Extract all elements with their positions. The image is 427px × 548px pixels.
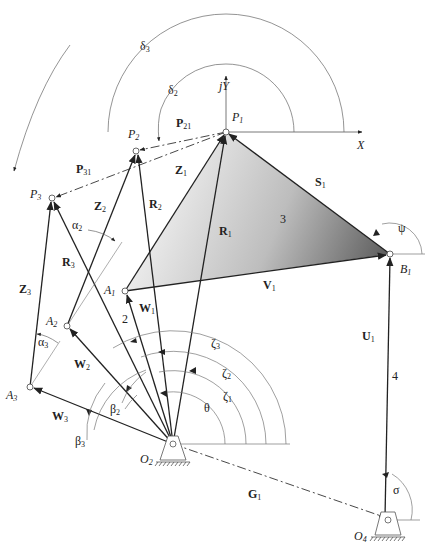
beta2-label: β2 (110, 403, 120, 417)
psi-label: ψ (398, 222, 406, 234)
vector-P31-label: P31 (76, 163, 91, 177)
point-A1-label: A1 (104, 284, 115, 298)
point-P1-label: P1 (232, 111, 243, 125)
delta3-label: δ3 (140, 40, 150, 54)
point-P3-label: P3 (30, 188, 41, 202)
point-A2-label: A2 (46, 315, 57, 329)
vector-G1-label: G1 (248, 488, 261, 502)
linkage-diagram (0, 0, 427, 548)
delta3-arc-tail (8, 60, 34, 170)
beta3-arc (87, 383, 105, 440)
vector-W3-label: W3 (52, 410, 68, 424)
point-A3-label: A3 (6, 389, 17, 403)
link-3-label: 3 (280, 213, 286, 225)
beta2-arc (122, 372, 146, 403)
Z2-vector (67, 155, 135, 326)
point-P2-label: P2 (128, 128, 139, 142)
vector-Z3-label: Z3 (19, 283, 31, 297)
ground-pivot-o2 (155, 436, 190, 466)
vector-W2-label: W2 (74, 358, 90, 372)
delta2-arc-tail (158, 109, 161, 141)
vector-S1-label: S1 (315, 176, 326, 190)
delta3-arc-left (108, 92, 113, 132)
alpha3-label: α3 (38, 336, 48, 350)
theta-label: θ (204, 402, 210, 414)
vector-R1-label: R1 (219, 225, 232, 239)
vector-U1-label: U1 (362, 330, 375, 344)
vector-R3-label: R3 (62, 256, 75, 270)
vector-Z1-label: Z1 (175, 164, 187, 178)
o2-angle-arcs (94, 331, 290, 444)
link-2-label: 2 (122, 313, 128, 325)
zeta1-label: ζ1 (223, 390, 232, 404)
point-O4-label: O4 (354, 530, 367, 544)
delta3-arc-left-portion (14, 45, 70, 171)
P21-vector (140, 132, 226, 150)
delta2-arc-left-portion (147, 76, 162, 140)
vector-P21-label: P21 (176, 117, 191, 131)
zeta3-label: ζ3 (211, 337, 220, 351)
G1-vector (173, 444, 384, 517)
delta3-outer (14, 58, 54, 170)
delta2-label: δ2 (168, 84, 178, 98)
zeta2-label: ζ2 (222, 367, 231, 381)
alpha2-label: α2 (72, 219, 82, 233)
vector-V1-label: V1 (263, 279, 276, 293)
x-axis-label: X (357, 139, 364, 151)
sigma-label: σ (393, 484, 399, 496)
vector-Z2-label: Z2 (94, 200, 106, 214)
W1-vector (127, 295, 173, 444)
point-O2-label: O2 (140, 453, 153, 467)
link-4-label: 4 (392, 370, 398, 382)
ground-pivot-o4 (370, 512, 405, 541)
vector-R2-label: R2 (149, 198, 162, 212)
point-B1-label: B1 (400, 263, 411, 277)
y-axis-label: jY (219, 80, 229, 92)
W2-vector (70, 329, 173, 444)
psi-arrow (373, 229, 380, 236)
beta3-label: β3 (75, 435, 85, 449)
U1-vector (385, 258, 390, 518)
vector-W1-label: W1 (139, 302, 155, 316)
